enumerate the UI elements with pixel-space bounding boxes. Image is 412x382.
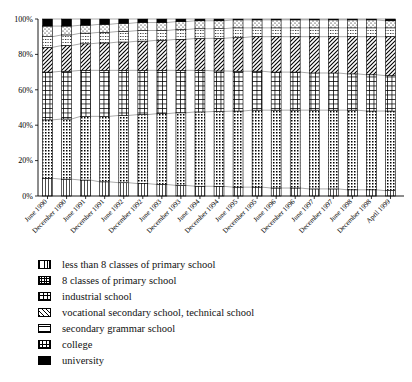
bar-segment[interactable] <box>233 38 243 72</box>
bar-segment[interactable] <box>100 182 110 196</box>
bar-segment[interactable] <box>62 35 72 46</box>
bar-segment[interactable] <box>138 70 148 114</box>
bar-segment[interactable] <box>233 20 243 28</box>
bar-segment[interactable] <box>100 70 110 116</box>
bar-segment[interactable] <box>328 20 338 28</box>
bar-segment[interactable] <box>138 115 148 184</box>
bar-segment[interactable] <box>252 28 262 37</box>
bar-segment[interactable] <box>214 29 224 39</box>
bar-segment[interactable] <box>138 184 148 196</box>
bar-column[interactable] <box>119 19 129 196</box>
bar-column[interactable] <box>195 19 205 196</box>
bar-segment[interactable] <box>290 37 300 72</box>
bar-segment[interactable] <box>386 21 396 28</box>
bar-segment[interactable] <box>176 70 186 112</box>
bar-segment[interactable] <box>119 31 129 42</box>
bar-segment[interactable] <box>233 19 243 20</box>
bar-segment[interactable] <box>328 189 338 196</box>
bar-segment[interactable] <box>252 71 262 110</box>
bar-column[interactable] <box>366 19 376 196</box>
bar-segment[interactable] <box>309 19 319 20</box>
bar-segment[interactable] <box>290 28 300 37</box>
bar-segment[interactable] <box>214 186 224 196</box>
bar-segment[interactable] <box>62 179 72 196</box>
bar-segment[interactable] <box>176 39 186 70</box>
bar-segment[interactable] <box>366 111 376 190</box>
bar-column[interactable] <box>100 19 110 196</box>
bar-segment[interactable] <box>100 32 110 43</box>
bar-segment[interactable] <box>81 19 91 25</box>
bar-segment[interactable] <box>328 28 338 37</box>
bar-segment[interactable] <box>81 33 91 44</box>
bar-segment[interactable] <box>309 189 319 196</box>
bar-segment[interactable] <box>214 21 224 29</box>
bar-segment[interactable] <box>43 37 53 48</box>
bar-segment[interactable] <box>138 31 148 42</box>
bar-segment[interactable] <box>347 19 357 20</box>
bar-segment[interactable] <box>290 72 300 110</box>
bar-segment[interactable] <box>290 19 300 20</box>
bar-segment[interactable] <box>366 75 376 111</box>
bar-segment[interactable] <box>176 22 186 30</box>
bar-segment[interactable] <box>62 19 72 26</box>
legend-item[interactable]: vocational secondary school, technical s… <box>38 304 358 320</box>
bar-segment[interactable] <box>271 110 281 188</box>
bar-segment[interactable] <box>347 37 357 74</box>
bar-segment[interactable] <box>290 110 300 188</box>
bar-segment[interactable] <box>138 23 148 31</box>
bar-segment[interactable] <box>366 37 376 75</box>
bar-segment[interactable] <box>43 72 53 120</box>
bar-segment[interactable] <box>157 31 167 41</box>
bar-segment[interactable] <box>43 19 53 26</box>
bar-segment[interactable] <box>252 19 262 20</box>
legend-item[interactable]: university <box>38 352 358 368</box>
bar-column[interactable] <box>386 19 396 196</box>
bar-segment[interactable] <box>309 28 319 37</box>
bar-segment[interactable] <box>366 20 376 28</box>
bar-segment[interactable] <box>347 190 357 196</box>
bar-segment[interactable] <box>233 111 243 187</box>
bar-segment[interactable] <box>100 116 110 181</box>
bar-segment[interactable] <box>176 185 186 196</box>
bar-segment[interactable] <box>290 188 300 196</box>
bar-segment[interactable] <box>233 28 243 38</box>
bar-segment[interactable] <box>195 29 205 39</box>
bar-column[interactable] <box>290 19 300 196</box>
bar-segment[interactable] <box>328 37 338 73</box>
bar-segment[interactable] <box>386 76 396 111</box>
bar-column[interactable] <box>347 19 357 196</box>
bar-segment[interactable] <box>252 20 262 28</box>
bar-segment[interactable] <box>328 19 338 20</box>
bar-segment[interactable] <box>62 26 72 35</box>
bar-segment[interactable] <box>62 46 72 72</box>
bar-segment[interactable] <box>271 28 281 37</box>
bar-segment[interactable] <box>43 178 53 196</box>
bar-column[interactable] <box>271 19 281 196</box>
bar-segment[interactable] <box>157 40 167 70</box>
bar-segment[interactable] <box>366 190 376 196</box>
bar-segment[interactable] <box>195 70 205 112</box>
bar-segment[interactable] <box>309 73 319 110</box>
bar-segment[interactable] <box>119 70 129 115</box>
bar-segment[interactable] <box>195 112 205 186</box>
bar-segment[interactable] <box>214 19 224 21</box>
bar-segment[interactable] <box>81 116 91 180</box>
bar-segment[interactable] <box>386 19 396 21</box>
bar-segment[interactable] <box>195 186 205 196</box>
bar-segment[interactable] <box>195 19 205 21</box>
bar-column[interactable] <box>214 19 224 196</box>
bar-segment[interactable] <box>309 110 319 189</box>
bar-column[interactable] <box>176 19 186 196</box>
bar-segment[interactable] <box>100 19 110 24</box>
bar-segment[interactable] <box>252 110 262 187</box>
bar-segment[interactable] <box>347 28 357 37</box>
bar-segment[interactable] <box>157 185 167 197</box>
bar-segment[interactable] <box>138 41 148 70</box>
bar-segment[interactable] <box>119 42 129 70</box>
bar-segment[interactable] <box>43 120 53 178</box>
bar-segment[interactable] <box>195 21 205 29</box>
bar-segment[interactable] <box>309 20 319 28</box>
bar-segment[interactable] <box>366 19 376 20</box>
bar-segment[interactable] <box>328 110 338 189</box>
bar-segment[interactable] <box>271 19 281 20</box>
